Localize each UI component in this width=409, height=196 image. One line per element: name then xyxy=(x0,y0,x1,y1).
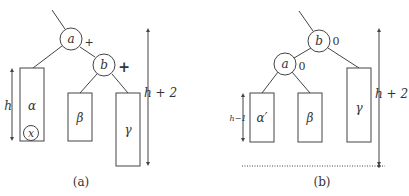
node-b-label: b xyxy=(315,34,323,48)
node-a-balance: + xyxy=(84,36,93,49)
height-label-h-plus-2: h + 2 xyxy=(375,87,408,101)
node-b-balance: 0 xyxy=(333,35,340,48)
inserted-node-x-label: x xyxy=(28,127,35,140)
node-a-label: a xyxy=(67,32,74,46)
panel-a xyxy=(12,10,148,166)
edge-b-gamma xyxy=(112,74,128,93)
subtree-gamma-label: γ xyxy=(124,123,132,137)
edge-parent-a xyxy=(52,10,65,29)
node-b-label: b xyxy=(100,58,108,72)
edge-a-alpha xyxy=(33,46,62,68)
node-a-label: a xyxy=(281,57,288,71)
node-a-balance: 0 xyxy=(299,60,306,73)
height-label-h-minus-1: h−1 xyxy=(230,114,247,123)
panel-b xyxy=(242,11,385,167)
avl-rotation-diagram: a + b + α x β γ h h + 2 (a) b 0 a 0 α′ β… xyxy=(0,0,409,196)
subtree-beta-label: β xyxy=(76,111,84,125)
subtree-alpha-prime-label: α′ xyxy=(257,111,268,125)
edge-parent-b xyxy=(299,11,313,31)
subtree-alpha-label: α xyxy=(28,99,36,113)
subtree-gamma-label: γ xyxy=(355,101,363,115)
edge-a-alpha-prime xyxy=(262,72,278,93)
node-b-balance: + xyxy=(118,59,130,75)
caption-a: (a) xyxy=(73,175,90,189)
height-label-h-plus-2: h + 2 xyxy=(144,86,177,100)
edge-b-a xyxy=(294,48,311,58)
baseline-endpoint xyxy=(378,165,380,167)
height-label-h: h xyxy=(4,99,12,113)
edge-b-beta xyxy=(80,74,97,93)
subtree-beta-label: β xyxy=(306,111,314,125)
edge-b-gamma xyxy=(328,48,359,68)
caption-b: (b) xyxy=(313,175,330,189)
edge-a-beta xyxy=(292,72,310,93)
